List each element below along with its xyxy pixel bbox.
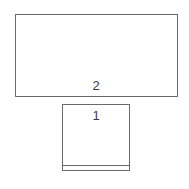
diagram-canvas: 2 1 <box>0 0 189 189</box>
rectangle-label-1: 1 <box>86 109 106 122</box>
rectangle-1-bottom-divider-line <box>62 165 130 166</box>
rectangle-label-2: 2 <box>86 79 106 92</box>
